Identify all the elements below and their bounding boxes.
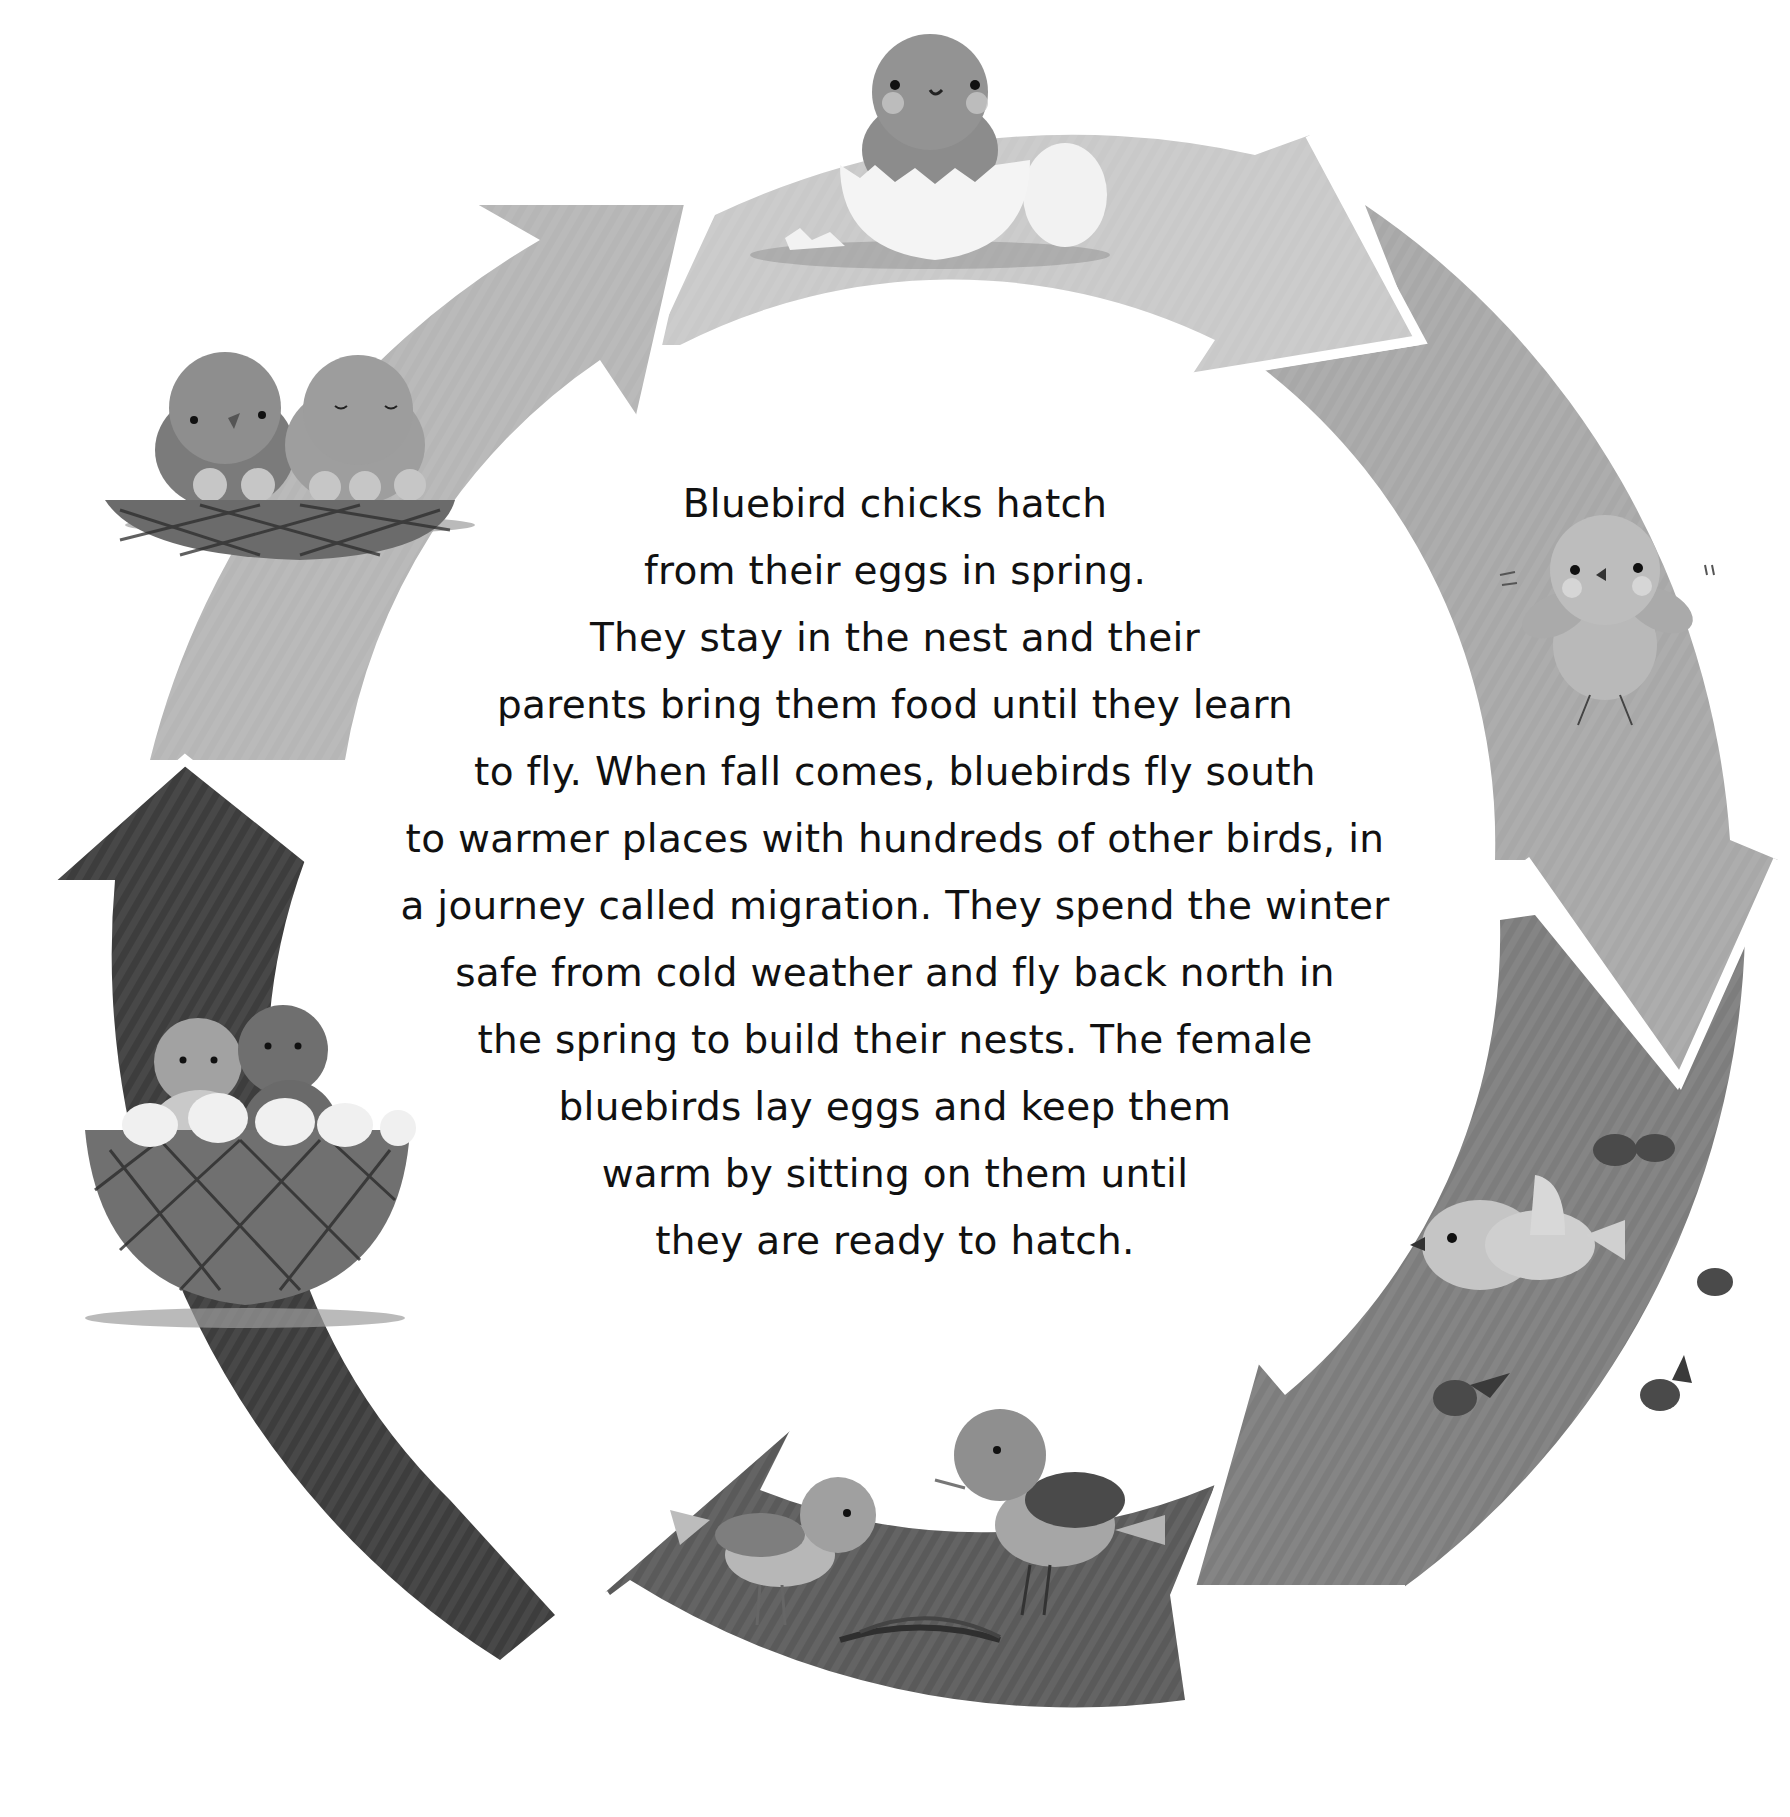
- description-line: They stay in the nest and their: [395, 604, 1395, 671]
- description-line: to fly. When fall comes, bluebirds fly s…: [395, 738, 1395, 805]
- hatching-chick-illustration: [750, 34, 1110, 269]
- description-line: safe from cold weather and fly back nort…: [395, 939, 1395, 1006]
- description-line: bluebirds lay eggs and keep them: [395, 1073, 1395, 1140]
- description-line: from their eggs in spring.: [395, 537, 1395, 604]
- description-line: the spring to build their nests. The fem…: [395, 1006, 1395, 1073]
- description-line: they are ready to hatch.: [395, 1207, 1395, 1274]
- life-cycle-description: Bluebird chicks hatch from their eggs in…: [395, 470, 1395, 1274]
- description-line: parents bring them food until they learn: [395, 671, 1395, 738]
- eggshell-right: [1023, 143, 1107, 247]
- description-line: to warmer places with hundreds of other …: [395, 805, 1395, 872]
- description-line: warm by sitting on them until: [395, 1140, 1395, 1207]
- description-line: a journey called migration. They spend t…: [395, 872, 1395, 939]
- description-line: Bluebird chicks hatch: [395, 470, 1395, 537]
